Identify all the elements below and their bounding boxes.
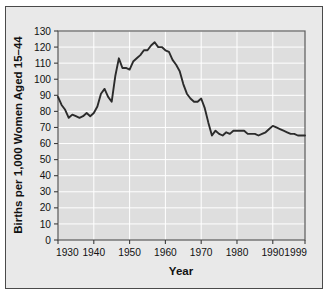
y-tick-label-100: 100 <box>34 74 51 85</box>
y-tick-label-70: 70 <box>40 122 52 133</box>
y-axis: 0102030405060708090100110120130 <box>34 26 58 246</box>
chart-figure: 0102030405060708090100110120130 19301940… <box>0 0 329 298</box>
plot-area-background <box>58 31 305 240</box>
y-tick-label-50: 50 <box>40 154 52 165</box>
x-axis: 19301940195019601970198019901999 <box>56 240 307 258</box>
x-tick-label-1960: 1960 <box>154 247 177 258</box>
y-tick-label-90: 90 <box>40 90 52 101</box>
x-tick-label-1990: 1990 <box>261 247 284 258</box>
y-tick-label-10: 10 <box>40 219 52 230</box>
x-tick-label-1980: 1980 <box>226 247 249 258</box>
x-tick-label-1999: 1999 <box>284 247 307 258</box>
fertility-rate-line-chart: 0102030405060708090100110120130 19301940… <box>0 0 329 298</box>
y-tick-label-120: 120 <box>34 42 51 53</box>
x-tick-label-1970: 1970 <box>190 247 213 258</box>
x-tick-label-1930: 1930 <box>56 247 79 258</box>
y-tick-label-80: 80 <box>40 106 52 117</box>
y-tick-label-20: 20 <box>40 202 52 213</box>
y-tick-label-40: 40 <box>40 170 52 181</box>
y-tick-label-60: 60 <box>40 138 52 149</box>
x-tick-label-1940: 1940 <box>82 247 105 258</box>
y-tick-label-0: 0 <box>45 235 51 246</box>
x-tick-label-1950: 1950 <box>118 247 141 258</box>
x-axis-title: Year <box>169 265 194 277</box>
y-tick-label-130: 130 <box>34 26 51 37</box>
y-tick-label-30: 30 <box>40 186 52 197</box>
y-tick-label-110: 110 <box>35 58 52 69</box>
y-axis-title: Births per 1,000 Women Aged 15–44 <box>12 36 24 234</box>
